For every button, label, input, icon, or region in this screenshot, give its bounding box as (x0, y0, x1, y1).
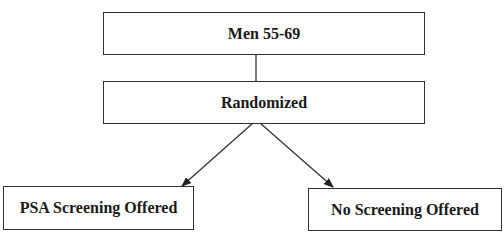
arrow-to-psa-screening (182, 123, 253, 186)
node-psa-screening-offered: PSA Screening Offered (3, 186, 194, 230)
node-label: Randomized (221, 94, 307, 112)
node-label: No Screening Offered (331, 201, 479, 219)
node-men-55-69: Men 55-69 (103, 12, 425, 55)
node-label: Men 55-69 (228, 25, 300, 43)
node-label: PSA Screening Offered (20, 199, 178, 217)
arrow-to-no-screening (260, 123, 333, 187)
node-no-screening-offered: No Screening Offered (308, 188, 502, 231)
node-randomized: Randomized (103, 81, 425, 124)
